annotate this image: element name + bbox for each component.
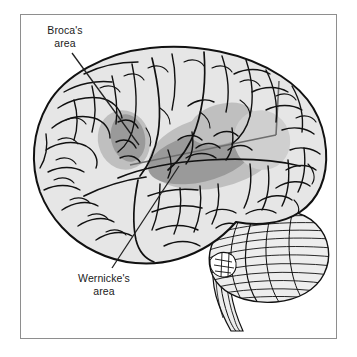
brain-illustration-svg [0,0,357,357]
brocas-label-line1: Broca's [47,24,82,36]
wernickes-label-line2: area [93,285,114,297]
flocculus-shape [210,252,236,277]
wernickes-area-label: Wernicke's area [58,272,150,297]
brain-diagram-figure: Broca's area Wernicke's area [0,0,357,357]
brocas-label-line2: area [54,37,75,49]
brocas-area-label: Broca's area [34,24,96,49]
wernickes-label-line1: Wernicke's [78,272,130,284]
